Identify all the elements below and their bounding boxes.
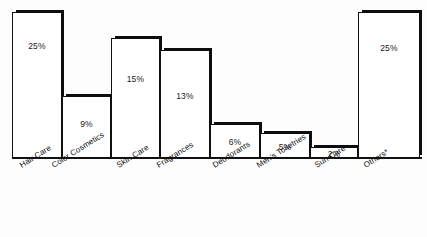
bar-shadow-top bbox=[264, 131, 312, 134]
bar-shadow-top bbox=[362, 10, 422, 13]
bar-shadow-top bbox=[16, 10, 64, 13]
bar-shadow-top bbox=[164, 48, 212, 51]
bar-value-label: 13% bbox=[161, 91, 209, 101]
bar-skin-care[interactable]: 15% bbox=[111, 38, 160, 159]
bar-hair-care[interactable]: 25% bbox=[12, 12, 62, 159]
bar-others[interactable]: 25% bbox=[358, 12, 420, 159]
bar-shadow-top bbox=[115, 36, 162, 39]
bar-value-label: 25% bbox=[13, 41, 61, 51]
x-axis-tick-labels: Hair Care Color Cosmetics Skin Care Frag… bbox=[0, 158, 427, 237]
plot-area: 25% 9% 15% 13% 6% 5% bbox=[12, 8, 420, 158]
bar-value-label: 25% bbox=[359, 43, 419, 53]
bar-shadow-right bbox=[419, 10, 422, 155]
bar-shadow-top bbox=[66, 94, 113, 97]
bar-value-label: 9% bbox=[63, 119, 110, 129]
bar-chart: 25% 9% 15% 13% 6% 5% bbox=[0, 0, 427, 237]
bar-value-label: 15% bbox=[112, 74, 159, 84]
bar-shadow-top bbox=[214, 122, 262, 125]
